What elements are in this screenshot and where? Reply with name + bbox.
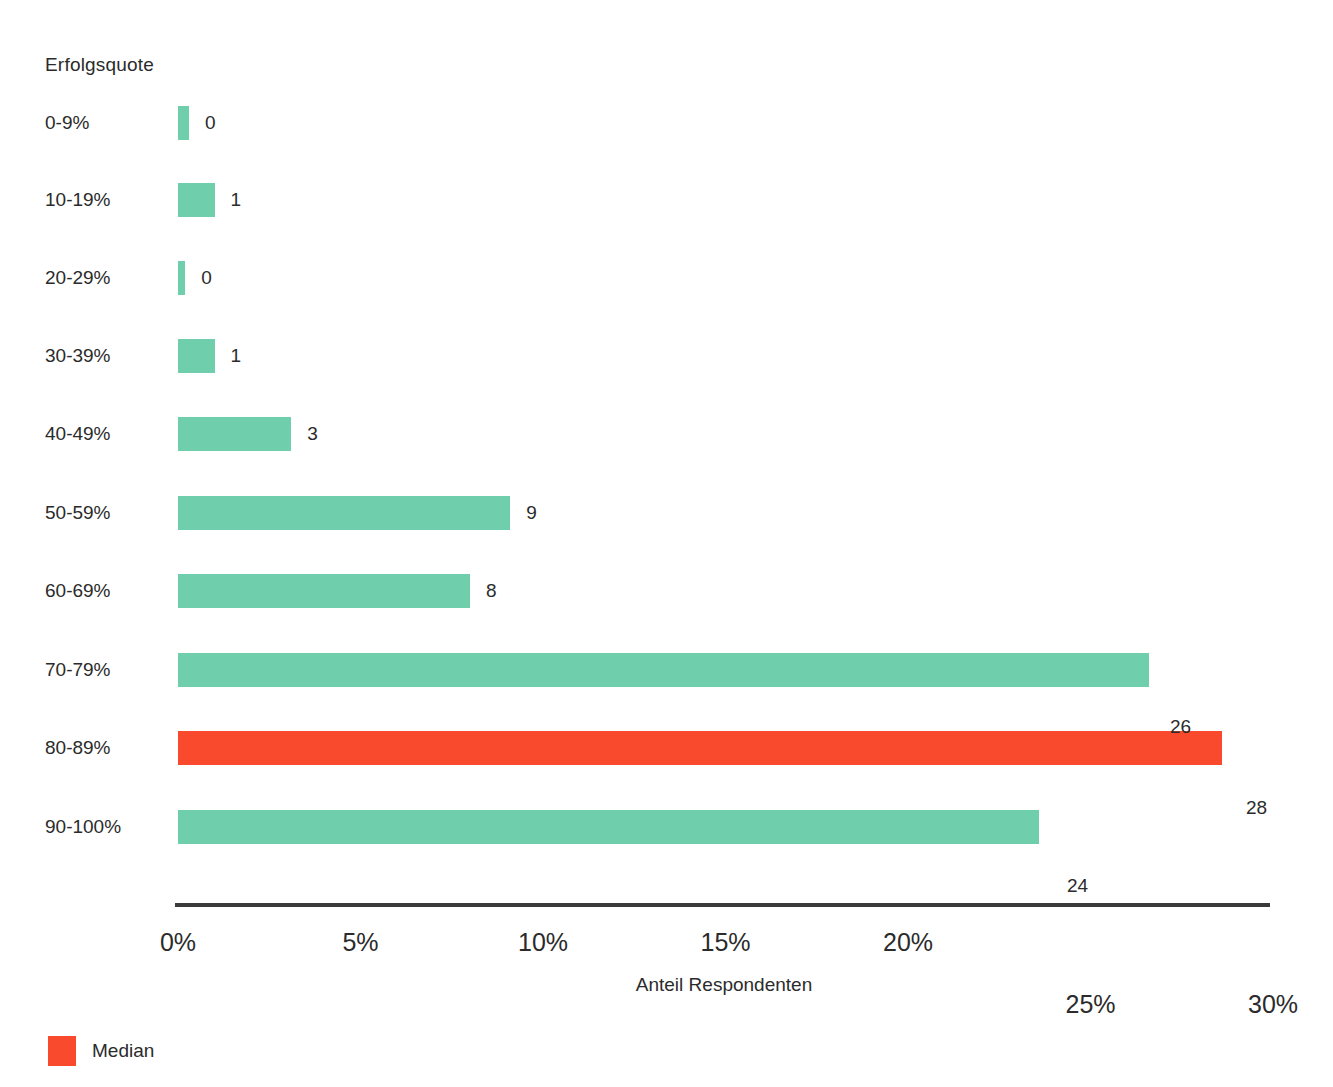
data-label: 26 — [1170, 716, 1191, 738]
category-label: 60-69% — [45, 580, 111, 602]
bar — [178, 653, 1149, 687]
category-label: 80-89% — [45, 737, 111, 759]
x-tick-label: 20% — [883, 928, 933, 957]
legend-swatch-median — [48, 1036, 76, 1066]
x-axis-line — [175, 903, 1270, 907]
category-label: 30-39% — [45, 345, 111, 367]
bar-chart: Erfolgsquote 0-9%10-19%20-29%30-39%40-49… — [0, 0, 1333, 1087]
bar — [178, 496, 510, 530]
x-tick-label: 30% — [1248, 990, 1298, 1019]
bar — [178, 810, 1039, 844]
category-label: 70-79% — [45, 659, 111, 681]
x-tick-label: 25% — [1065, 990, 1115, 1019]
bar — [178, 731, 1222, 765]
bar — [178, 106, 189, 140]
data-label: 0 — [205, 112, 216, 134]
bar — [178, 417, 291, 451]
legend-label-median: Median — [92, 1040, 154, 1062]
data-label: 0 — [201, 267, 212, 289]
data-label: 8 — [486, 580, 497, 602]
category-label: 0-9% — [45, 112, 89, 134]
category-label: 90-100% — [45, 816, 121, 838]
x-tick-label: 15% — [700, 928, 750, 957]
x-tick-label: 5% — [342, 928, 378, 957]
data-label: 3 — [307, 423, 318, 445]
x-tick-label: 10% — [518, 928, 568, 957]
x-axis-title: Anteil Respondenten — [636, 974, 812, 996]
x-tick-label: 0% — [160, 928, 196, 957]
data-label: 28 — [1246, 797, 1267, 819]
data-label: 9 — [526, 502, 537, 524]
category-label: 20-29% — [45, 267, 111, 289]
bar — [178, 183, 215, 217]
category-label: 40-49% — [45, 423, 111, 445]
category-label: 10-19% — [45, 189, 111, 211]
bar — [178, 339, 215, 373]
bar — [178, 574, 470, 608]
data-label: 24 — [1067, 875, 1088, 897]
category-label: 50-59% — [45, 502, 111, 524]
bar — [178, 261, 185, 295]
series-title: Erfolgsquote — [45, 54, 154, 76]
data-label: 1 — [231, 189, 242, 211]
data-label: 1 — [231, 345, 242, 367]
